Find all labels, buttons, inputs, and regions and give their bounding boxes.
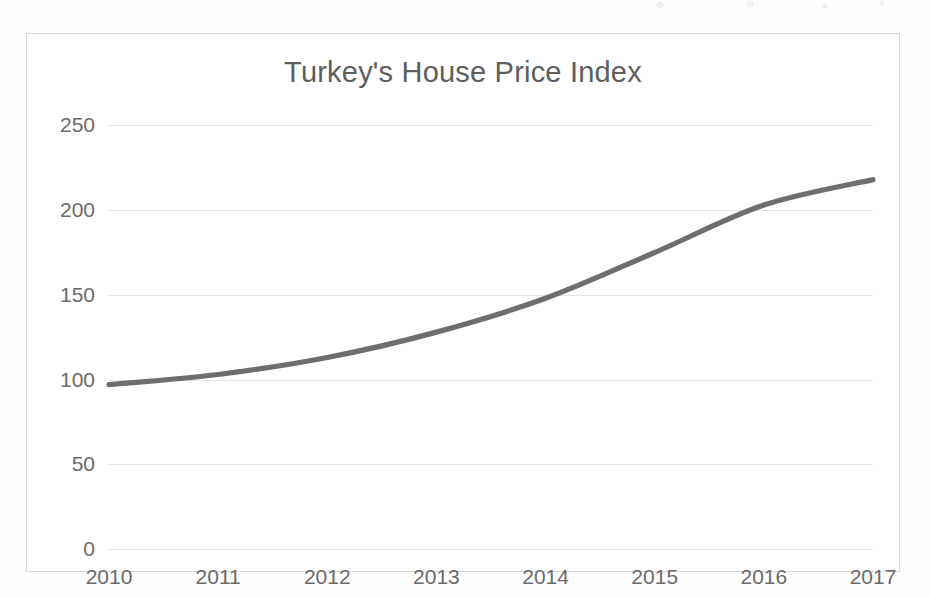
- x-tick-label-2010: 2010: [86, 565, 133, 589]
- series-plot: [109, 100, 873, 549]
- x-tick-label-2012: 2012: [304, 565, 351, 589]
- x-tick-label-2016: 2016: [740, 565, 787, 589]
- x-tick-label-2014: 2014: [522, 565, 569, 589]
- gridline-0: [109, 549, 873, 550]
- plot-area: 050100150200250 201020112012201320142015…: [109, 100, 873, 549]
- x-tick-label-2015: 2015: [631, 565, 678, 589]
- x-tick-label-2011: 2011: [196, 565, 241, 589]
- y-tick-label-200: 200: [60, 198, 95, 222]
- line-series-house-price-index: [109, 180, 873, 385]
- chart-title: Turkey's House Price Index: [27, 56, 899, 89]
- y-tick-label-50: 50: [72, 452, 95, 476]
- chart-page: Turkey's House Price Index 0501001502002…: [0, 0, 930, 597]
- y-tick-label-150: 150: [60, 282, 95, 306]
- y-tick-label-100: 100: [60, 367, 95, 391]
- y-tick-label-0: 0: [83, 537, 95, 561]
- x-tick-label-2017: 2017: [850, 565, 897, 589]
- chart-frame: Turkey's House Price Index 0501001502002…: [26, 33, 900, 572]
- x-tick-label-2013: 2013: [413, 565, 460, 589]
- scan-artifact-marks: [620, 0, 920, 14]
- y-tick-label-250: 250: [60, 113, 95, 137]
